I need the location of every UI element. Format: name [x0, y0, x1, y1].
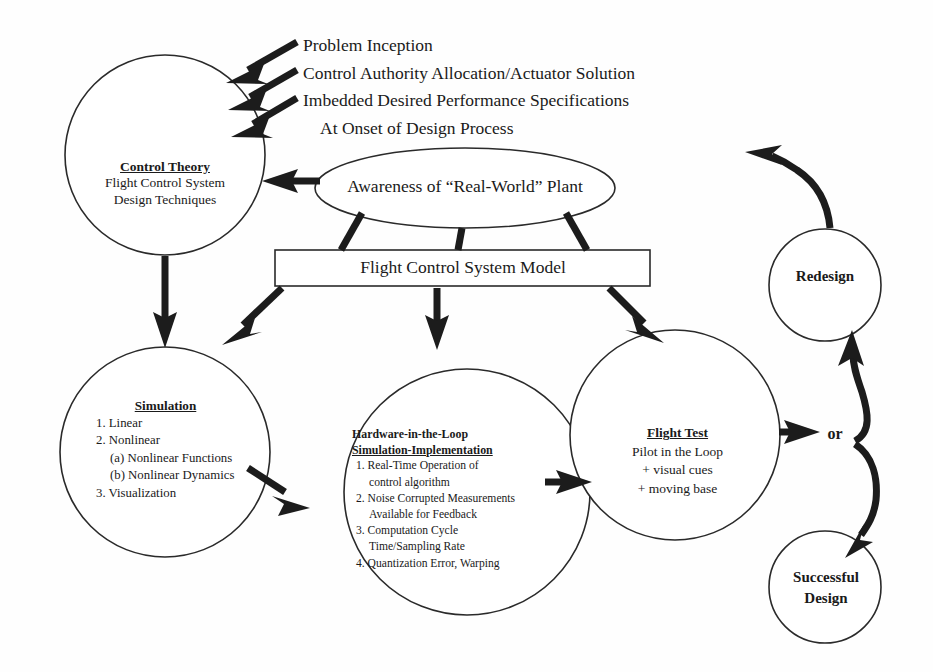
connector-awareness-model-right [566, 213, 587, 250]
control-theory-line-1: Design Techniques [55, 192, 275, 208]
source-input-3: At Onset of Design Process [303, 115, 635, 143]
flight-test-line-1: + visual cues [590, 461, 765, 480]
hil-item-3: Available for Feedback [352, 507, 584, 523]
arrow-control-theory-to-simulation [153, 256, 177, 348]
flight-control-design-diagram: Problem Inception Control Authority Allo… [0, 0, 933, 672]
flight-test-line-0: Pilot in the Loop [590, 443, 765, 462]
hil-item-4: 3. Computation Cycle [352, 523, 584, 539]
arrow-model-to-hardware-in-the-loop [425, 288, 449, 350]
node-label-flight-test: Flight Test Pilot in the Loop + visual c… [590, 424, 765, 498]
flight-test-heading: Flight Test [590, 424, 765, 443]
simulation-item-0: 1. Linear [58, 415, 273, 433]
hil-item-6: 4. Quantization Error, Warping [352, 556, 584, 572]
node-label-control-theory: Control Theory Flight Control System Des… [55, 159, 275, 208]
source-input-0: Problem Inception [303, 32, 635, 60]
node-label-simulation: Simulation 1. Linear 2. Nonlinear (a) No… [58, 397, 273, 502]
arrow-redesign-feedback [745, 145, 830, 228]
arrow-model-to-simulation [222, 288, 282, 345]
hil-item-5: Time/Sampling Rate [352, 539, 584, 555]
hil-item-1: control algorithm [352, 475, 584, 491]
flight-test-line-2: + moving base [590, 480, 765, 499]
node-label-awareness: Awareness of “Real-World” Plant [320, 176, 610, 197]
source-inputs-list: Problem Inception Control Authority Allo… [303, 32, 635, 142]
simulation-item-3: (b) Nonlinear Dynamics [58, 467, 273, 485]
hil-heading-line-2: Simulation-Implementation [352, 442, 584, 458]
hil-heading-line-1: Hardware-in-the-Loop [352, 426, 584, 442]
node-label-model: Flight Control System Model [278, 257, 648, 278]
node-label-redesign: Redesign [760, 267, 890, 285]
simulation-item-2: (a) Nonlinear Functions [58, 450, 273, 468]
simulation-heading: Simulation [58, 397, 273, 415]
node-label-hardware-in-the-loop: Hardware-in-the-Loop Simulation-Implemen… [352, 426, 584, 572]
successful-design-line-0: Successful [762, 567, 890, 588]
connector-awareness-model-left [341, 213, 362, 250]
control-theory-line-0: Flight Control System [55, 175, 275, 191]
control-theory-heading: Control Theory [55, 159, 275, 175]
hil-item-2: 2. Noise Corrupted Measurements [352, 491, 584, 507]
connector-awareness-model-center [458, 228, 462, 250]
simulation-item-4: 3. Visualization [58, 485, 273, 503]
branch-label-or: or [805, 424, 865, 444]
successful-design-line-1: Design [762, 588, 890, 609]
node-label-successful-design: Successful Design [762, 567, 890, 609]
source-input-1: Control Authority Allocation/Actuator So… [303, 60, 635, 88]
hil-item-0: 1. Real-Time Operation of [352, 458, 584, 474]
source-input-2: Imbedded Desired Performance Specificati… [303, 87, 635, 115]
node-shape-control-theory [65, 55, 265, 255]
simulation-item-1: 2. Nonlinear [58, 432, 273, 450]
